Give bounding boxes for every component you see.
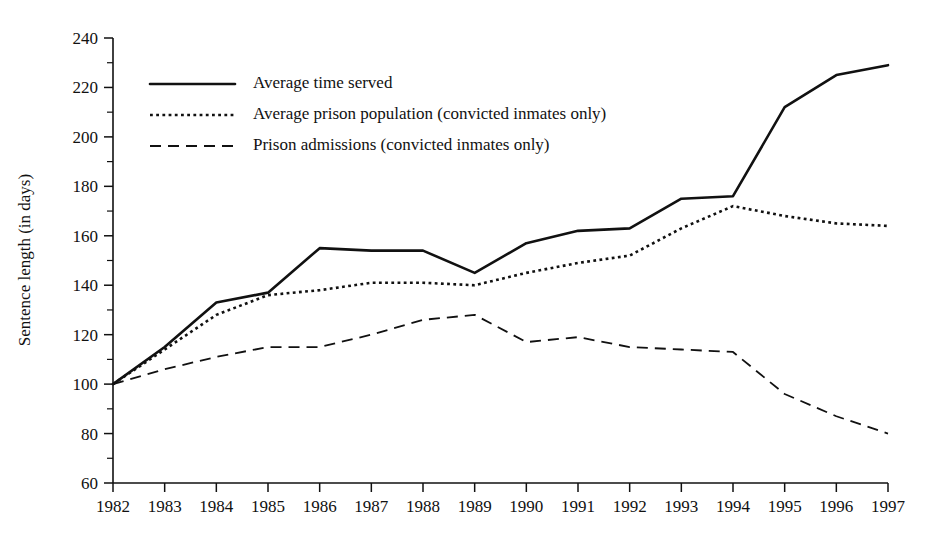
y-tick-label: 160 bbox=[73, 227, 99, 246]
x-tick-label: 1989 bbox=[458, 497, 492, 516]
y-tick-label: 140 bbox=[73, 276, 99, 295]
x-tick-label: 1997 bbox=[871, 497, 906, 516]
y-tick-label: 240 bbox=[73, 29, 99, 48]
x-tick-label: 1983 bbox=[148, 497, 182, 516]
x-tick-label: 1992 bbox=[613, 497, 647, 516]
series-line-2 bbox=[113, 315, 888, 434]
legend-label: Prison admissions (convicted inmates onl… bbox=[253, 135, 550, 154]
x-axis: 1982198319841985198619871988198919901991… bbox=[96, 483, 906, 516]
chart-legend: Average time servedAverage prison popula… bbox=[150, 73, 606, 154]
x-tick-label: 1990 bbox=[509, 497, 543, 516]
x-tick-label: 1982 bbox=[96, 497, 130, 516]
x-tick-label: 1986 bbox=[303, 497, 337, 516]
x-tick-label: 1987 bbox=[354, 497, 389, 516]
chart-figure: 6080100120140160180200220240 19821983198… bbox=[0, 0, 930, 546]
y-tick-label: 100 bbox=[73, 375, 99, 394]
y-tick-label: 180 bbox=[73, 177, 99, 196]
legend-label: Average prison population (convicted inm… bbox=[253, 104, 606, 123]
x-tick-label: 1984 bbox=[199, 497, 234, 516]
x-tick-label: 1991 bbox=[561, 497, 595, 516]
x-tick-label: 1988 bbox=[406, 497, 440, 516]
y-axis-title: Sentence length (in days) bbox=[15, 174, 34, 346]
line-chart: 6080100120140160180200220240 19821983198… bbox=[0, 0, 930, 546]
x-tick-label: 1994 bbox=[716, 497, 751, 516]
series-line-1 bbox=[113, 206, 888, 384]
x-tick-label: 1985 bbox=[251, 497, 285, 516]
y-tick-label: 80 bbox=[81, 425, 98, 444]
x-tick-label: 1996 bbox=[819, 497, 853, 516]
y-axis: 6080100120140160180200220240 bbox=[73, 29, 114, 493]
y-tick-label: 200 bbox=[73, 128, 99, 147]
y-tick-label: 220 bbox=[73, 78, 99, 97]
legend-label: Average time served bbox=[253, 73, 393, 92]
x-tick-label: 1995 bbox=[768, 497, 802, 516]
y-tick-label: 120 bbox=[73, 326, 99, 345]
y-tick-label: 60 bbox=[81, 474, 98, 493]
x-tick-label: 1993 bbox=[664, 497, 698, 516]
